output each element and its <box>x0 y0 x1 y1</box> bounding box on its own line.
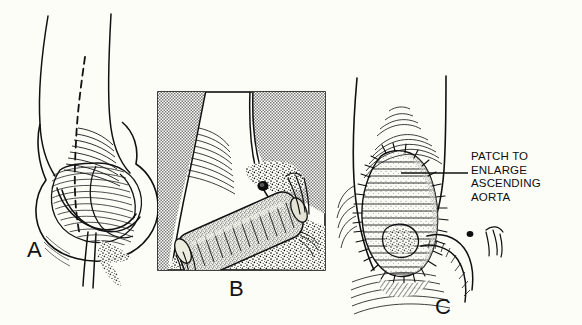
left-wall-shading-c <box>337 186 357 248</box>
vessel-branch-marks-c <box>486 227 503 257</box>
coronary-ostium-c <box>467 231 474 237</box>
ostium-highlight-b <box>260 183 265 187</box>
root-shadow-a <box>97 240 131 288</box>
annotation-line-3: ASCENDING <box>471 177 579 191</box>
panel-label-c: C <box>435 296 451 318</box>
annotation-line-2: ENLARGE <box>471 164 579 178</box>
root-shading-a <box>48 167 134 247</box>
panel-b-drawing <box>158 90 325 281</box>
panel-label-b: B <box>229 278 244 300</box>
surgical-illustration-figure: A B C PATCH TO ENLARGE ASCENDING AORTA <box>0 0 582 325</box>
panel-a-drawing <box>36 14 158 288</box>
annotation-line-1: PATCH TO <box>471 150 579 164</box>
ascending-aorta-outline-a <box>39 14 130 176</box>
aortic-sinuses-a <box>51 163 141 243</box>
annotation-patch-to-enlarge-ascending-aorta: PATCH TO ENLARGE ASCENDING AORTA <box>471 150 579 204</box>
panel-label-a: A <box>27 239 42 261</box>
annotation-line-4: AORTA <box>471 191 579 205</box>
